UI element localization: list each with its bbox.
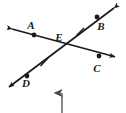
point-dot-B — [95, 15, 100, 20]
line-AC — [12, 29, 115, 57]
point-label-E: E — [54, 31, 62, 43]
point-label-C: C — [93, 62, 101, 74]
geometry-figure: A B C D E — [0, 0, 126, 113]
point-label-B: B — [96, 20, 104, 32]
point-dot-A — [32, 33, 37, 38]
point-dot-C — [97, 54, 102, 59]
point-label-D: D — [21, 77, 30, 89]
geometry-diagram-screenshot: A B C D E — [0, 0, 126, 113]
point-label-A: A — [26, 19, 34, 31]
